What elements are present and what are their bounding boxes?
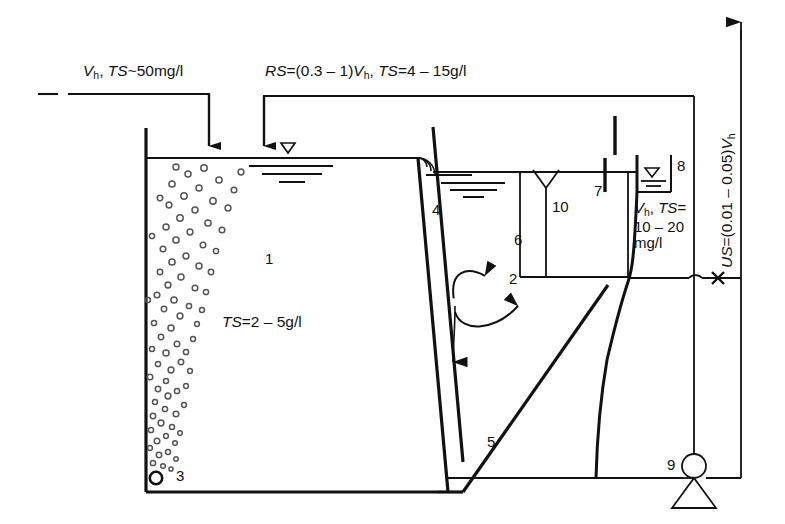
aeration-ts-label: TS=2 – 5g/l bbox=[222, 313, 302, 331]
influent-flow-symbol: V bbox=[83, 62, 93, 79]
aeration-ts-symbol: TS bbox=[222, 313, 242, 330]
us-value: =(0.01 – 0.05) bbox=[718, 150, 735, 247]
influent-pipe bbox=[38, 94, 210, 146]
us-flow-symbol: V bbox=[718, 139, 735, 149]
rs-flow-symbol: V bbox=[353, 62, 363, 79]
item-number-1: 1 bbox=[265, 250, 273, 267]
rs-ts-value: =4 – 15g/l bbox=[398, 62, 467, 79]
rs-sep: , bbox=[370, 62, 379, 79]
item-number-3: 3 bbox=[176, 467, 184, 484]
clarifier-outline bbox=[433, 172, 637, 492]
influent-label: Vh, TS~50mg/l bbox=[83, 62, 183, 81]
influent-sep: , bbox=[99, 62, 108, 79]
circulation-flow-arrows bbox=[450, 269, 518, 362]
effluent-ts-eq: = bbox=[677, 199, 686, 216]
inclined-baffle-wall bbox=[418, 127, 472, 492]
diagram-canvas: Vh, TS~50mg/l RS=(0.3 – 1)Vh, TS=4 – 15g… bbox=[0, 0, 785, 524]
skimmer-funnel bbox=[533, 170, 559, 277]
pump-symbol bbox=[672, 454, 716, 508]
influent-ts-symbol: TS bbox=[108, 62, 128, 79]
item-number-8: 8 bbox=[677, 157, 685, 174]
effluent-quality-line3: mg/l bbox=[634, 235, 686, 252]
us-flow-sub: h bbox=[725, 133, 737, 139]
item-number-10: 10 bbox=[552, 198, 569, 215]
scum-baffles bbox=[605, 116, 615, 192]
rs-symbol: RS bbox=[265, 62, 287, 79]
aeration-ts-value: =2 – 5g/l bbox=[242, 313, 302, 330]
rs-ts-symbol: TS bbox=[378, 62, 398, 79]
effluent-quality-label: Vh, TS= 10 – 20 mg/l bbox=[634, 200, 686, 252]
effluent-quality-line1: Vh, TS= bbox=[634, 200, 686, 219]
item-number-6: 6 bbox=[514, 231, 522, 248]
us-symbol: US bbox=[718, 246, 735, 268]
effluent-sep: , bbox=[650, 199, 658, 216]
item-number-2: 2 bbox=[509, 270, 517, 287]
influent-ts-value: ~50mg/l bbox=[128, 62, 184, 79]
rs-value: =(0.3 – 1) bbox=[287, 62, 354, 79]
effluent-ts-symbol: TS bbox=[658, 199, 677, 216]
effluent-quality-line2: 10 – 20 bbox=[634, 219, 686, 236]
return-sludge-label: RS=(0.3 – 1)Vh, TS=4 – 15g/l bbox=[265, 62, 466, 81]
sludge-collection-box bbox=[520, 172, 628, 277]
item-number-9: 9 bbox=[667, 456, 675, 473]
water-level-symbol-aeration bbox=[249, 143, 333, 182]
item-number-5: 5 bbox=[487, 433, 495, 450]
item-number-4: 4 bbox=[432, 201, 440, 218]
air-diffuser bbox=[150, 472, 162, 484]
excess-sludge-label: US=(0.01 – 0.05)Vh bbox=[718, 133, 737, 268]
effluent-flow-symbol: V bbox=[634, 199, 644, 216]
item-number-7: 7 bbox=[594, 182, 602, 199]
return-sludge-bottom-pipe bbox=[448, 270, 694, 478]
